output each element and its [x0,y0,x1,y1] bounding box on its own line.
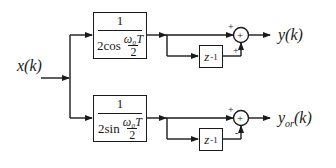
top-delay-block: z-1 [199,45,223,68]
gain-denominator: 2sin ω₀T 2 [98,116,142,141]
denominator-fraction-bottom: 2 [127,128,137,141]
cos-gain-block: 1 2cos ω₀T 2 [93,12,147,59]
denominator-fraction-top: ω₀T [124,33,143,45]
delay-base: z [204,132,209,148]
denominator-fraction-bottom: 2 [128,45,138,58]
fraction-bar [98,113,142,114]
sin-gain-block: 1 2sin ω₀T 2 [93,95,147,142]
delay-base: z [204,49,209,65]
bottom-summer-sign-bottom: - [235,128,238,138]
bottom-delay-block: z-1 [199,128,223,151]
gain-numerator: 1 [117,14,124,28]
bottom-summer-sign-left: + [228,105,234,115]
fraction-bar [98,30,142,31]
gain-denominator: 2cos ω₀T 2 [97,33,143,58]
top-summer-sign-bottom: + [233,46,239,56]
output-subscript: or [285,118,294,129]
output-suffix: (k) [294,109,312,126]
top-summer-sign-left: + [228,22,234,32]
denominator-prefix: 2cos [97,39,121,52]
bottom-output-label: yor(k) [278,110,312,129]
delay-exponent: -1 [210,135,218,145]
denominator-prefix: 2sin [98,122,120,135]
denominator-fraction-top: ω₀T [123,116,142,128]
delay-exponent: -1 [210,52,218,62]
top-output-label: y(k) [278,27,303,43]
input-label: x(k) [17,58,42,74]
gain-numerator: 1 [117,97,124,111]
bottom-summer-symbol: + [237,113,243,124]
top-summer-symbol: + [237,30,243,41]
